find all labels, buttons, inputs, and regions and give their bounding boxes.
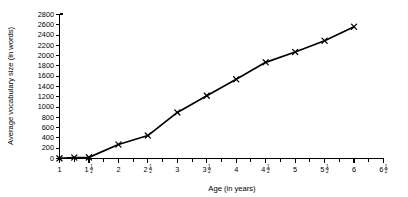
x-tick-whole: 3 <box>202 165 206 174</box>
x-axis-tick-label: 6 <box>352 165 356 174</box>
y-axis-tick-label: 2200 <box>38 41 54 50</box>
y-axis-tick-label: 1200 <box>38 92 54 101</box>
y-axis-title: Average vocabulary size (in words) <box>6 27 15 146</box>
x-tick-whole: 1 <box>57 165 61 174</box>
x-tick-fraction-denominator: 2 <box>149 169 152 174</box>
y-axis-tick-label: 1400 <box>38 82 54 91</box>
x-tick-fraction-denominator: 2 <box>208 169 211 174</box>
y-axis-tick-label: 1600 <box>38 71 54 80</box>
x-axis-tick-label: 3 <box>175 165 179 174</box>
vocabulary-growth-chart: 0200400600800100012001400160018002000220… <box>0 0 408 197</box>
y-axis: 0200400600800100012001400160018002000220… <box>38 10 63 163</box>
y-axis-tick-label: 2600 <box>38 20 54 29</box>
y-axis-tick-label: 2400 <box>38 30 54 39</box>
y-axis-tick-label: 0 <box>50 154 54 163</box>
y-axis-tick-label: 400 <box>42 133 54 142</box>
x-tick-whole: 1 <box>85 165 89 174</box>
x-tick-whole: 2 <box>144 165 148 174</box>
x-tick-whole: 2 <box>116 165 120 174</box>
y-axis-tick-label: 600 <box>42 123 54 132</box>
x-axis-tick-label: 5 <box>293 165 297 174</box>
x-tick-whole: 5 <box>293 165 297 174</box>
y-axis-tick-label: 800 <box>42 113 54 122</box>
x-tick-fraction-denominator: 2 <box>267 169 270 174</box>
y-axis-tick-label: 200 <box>42 143 54 152</box>
y-axis-tick-label: 2000 <box>38 51 54 60</box>
chart-canvas: 0200400600800100012001400160018002000220… <box>0 0 408 197</box>
x-axis-tick-label: 2 <box>116 165 120 174</box>
x-tick-whole: 6 <box>352 165 356 174</box>
x-tick-fraction-denominator: 2 <box>385 169 388 174</box>
y-axis-tick-label: 1800 <box>38 61 54 70</box>
x-axis-tick-label: 4 <box>234 165 238 174</box>
x-tick-whole: 5 <box>320 165 324 174</box>
x-axis-title: Age (in years) <box>208 184 256 193</box>
x-tick-fraction-denominator: 2 <box>90 169 93 174</box>
x-axis-tick-label: 1 <box>57 165 61 174</box>
x-tick-whole: 4 <box>261 165 265 174</box>
x-tick-whole: 6 <box>379 165 383 174</box>
x-tick-whole: 4 <box>234 165 238 174</box>
y-axis-tick-label: 1000 <box>38 102 54 111</box>
x-tick-whole: 3 <box>175 165 179 174</box>
y-axis-tick-label: 2800 <box>38 10 54 19</box>
x-tick-fraction-denominator: 2 <box>326 169 329 174</box>
